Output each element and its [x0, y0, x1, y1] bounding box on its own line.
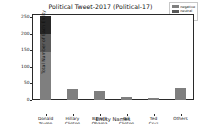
legend-swatch-negative — [172, 5, 179, 8]
legend-swatch-neutral — [172, 10, 179, 13]
legend-item-negative: negative — [172, 5, 195, 9]
y-axis-label: Total Number of Each Entity — [41, 0, 47, 85]
bar-others[interactable] — [175, 14, 186, 100]
legend-label-negative: negative — [180, 5, 195, 9]
legend-item-neutral: neutral — [172, 9, 195, 13]
x-axis-label: Entity Names — [32, 116, 194, 122]
bar-segment-negative — [94, 91, 105, 100]
y-tick-mark — [30, 50, 32, 51]
y-tick-mark — [30, 67, 32, 68]
bar-segment-negative — [121, 97, 132, 100]
y-tick-mark — [30, 83, 32, 84]
y-tick-mark — [30, 34, 32, 35]
bar-segment-negative — [175, 88, 186, 100]
chart-figure: Political Tweet-2017 (Political-17) nega… — [0, 0, 201, 124]
bar-segment-negative — [148, 98, 159, 100]
bar-bill-clinton[interactable] — [121, 14, 132, 100]
bar-segment-negative — [67, 89, 78, 100]
bar-ted-cruz[interactable] — [148, 14, 159, 100]
y-tick-mark — [30, 100, 32, 101]
bar-hillary-clinton[interactable] — [67, 14, 78, 100]
plot-area: 050100150200250 DonaldTrumpHillaryClinto… — [32, 14, 194, 100]
y-tick-mark — [30, 17, 32, 18]
bar-barack-obama[interactable] — [94, 14, 105, 100]
legend-label-neutral: neutral — [180, 9, 192, 13]
